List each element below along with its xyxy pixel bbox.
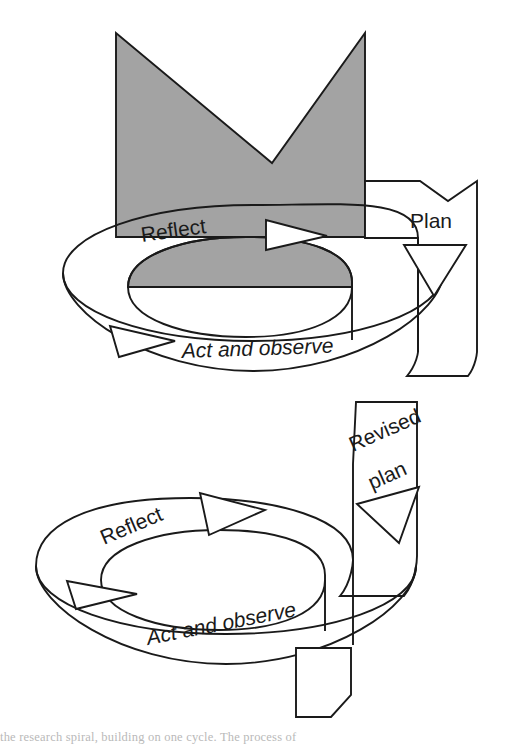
label-act-observe-bottom: Act and observe xyxy=(142,597,297,649)
label-act-observe-top: Act and observe xyxy=(179,334,333,362)
shaded-backdrop-group xyxy=(116,33,365,237)
page-caption: the research spiral, building on one cyc… xyxy=(0,729,530,745)
top-ring-inner-lower-outline xyxy=(128,287,352,337)
arrowhead-act-observe-top xyxy=(110,326,175,357)
label-reflect-bottom: Reflect xyxy=(97,502,166,549)
bottom-outflow-tail xyxy=(296,648,351,717)
figure-canvas: Reflect Act and observe Plan Revised pla… xyxy=(0,0,530,745)
top-ring-inner-shaded xyxy=(128,237,352,287)
label-plan: Plan xyxy=(410,209,452,232)
grey-v-backdrop xyxy=(116,33,365,237)
action-research-spiral-diagram: Reflect Act and observe Plan Revised pla… xyxy=(0,0,530,745)
